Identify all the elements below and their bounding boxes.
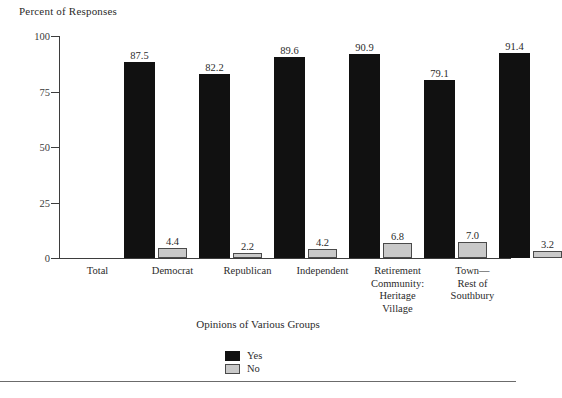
- y-axis-tick: [51, 258, 60, 259]
- y-axis-tick: [51, 203, 60, 204]
- y-axis-tick-label: 100: [16, 31, 50, 42]
- x-axis-category-label: Independent: [279, 265, 366, 278]
- bar-no-5: 3.2: [533, 251, 562, 258]
- bar-value-label: 7.0: [466, 230, 479, 241]
- chart-legend: YesNo: [0, 350, 516, 376]
- x-axis-category-label: Town—Rest ofSouthbury: [429, 265, 516, 303]
- bar-value-label: 3.2: [541, 239, 554, 250]
- y-axis-tick: [51, 147, 60, 148]
- bar-yes-5: 91.4: [499, 53, 530, 258]
- legend-item-no: No: [225, 363, 291, 374]
- bar-no-2: 4.2: [308, 249, 337, 258]
- bar-value-label: 4.4: [166, 236, 179, 247]
- bar-no-1: 2.2: [233, 253, 262, 258]
- bar-no-0: 4.4: [158, 248, 187, 258]
- y-axis-tick-label: 50: [16, 142, 50, 153]
- bar-no-4: 7.0: [458, 242, 487, 258]
- x-axis-category-label: RetirementCommunity:HeritageVillage: [354, 265, 441, 315]
- y-axis-title: Percent of Responses: [19, 5, 117, 17]
- x-axis-line: [59, 258, 511, 259]
- bar-value-label: 87.5: [130, 50, 148, 61]
- legend-swatch-icon: [225, 364, 240, 374]
- bar-yes-3: 90.9: [349, 54, 380, 258]
- x-axis-category-label: Democrat: [129, 265, 216, 278]
- bar-value-label: 90.9: [355, 42, 373, 53]
- legend-label: Yes: [247, 350, 262, 361]
- bar-value-label: 6.8: [391, 231, 404, 242]
- plot-area: 87.54.482.22.289.64.290.96.879.17.091.43…: [60, 36, 510, 258]
- y-axis-tick-label: 0: [16, 253, 50, 264]
- bar-value-label: 91.4: [505, 41, 523, 52]
- y-axis-tick-label: 75: [16, 86, 50, 97]
- bar-value-label: 89.6: [280, 45, 298, 56]
- bar-yes-2: 89.6: [274, 57, 305, 258]
- bar-yes-1: 82.2: [199, 74, 230, 258]
- bar-value-label: 2.2: [241, 241, 254, 252]
- x-axis-title: Opinions of Various Groups: [0, 318, 516, 330]
- x-axis-category-label: Total: [54, 265, 141, 278]
- bar-value-label: 79.1: [430, 68, 448, 79]
- y-axis-tick-label: 25: [16, 197, 50, 208]
- x-axis-category-label: Republican: [204, 265, 291, 278]
- bar-value-label: 82.2: [205, 62, 223, 73]
- bar-no-3: 6.8: [383, 243, 412, 258]
- legend-label: No: [247, 363, 260, 374]
- page-bottom-rule: [0, 381, 516, 382]
- legend-item-yes: Yes: [225, 350, 291, 361]
- bar-value-label: 4.2: [316, 237, 329, 248]
- bar-yes-4: 79.1: [424, 80, 455, 258]
- bar-yes-0: 87.5: [124, 62, 155, 258]
- y-axis-tick: [51, 36, 60, 37]
- y-axis-tick: [51, 92, 60, 93]
- legend-swatch-icon: [225, 351, 240, 361]
